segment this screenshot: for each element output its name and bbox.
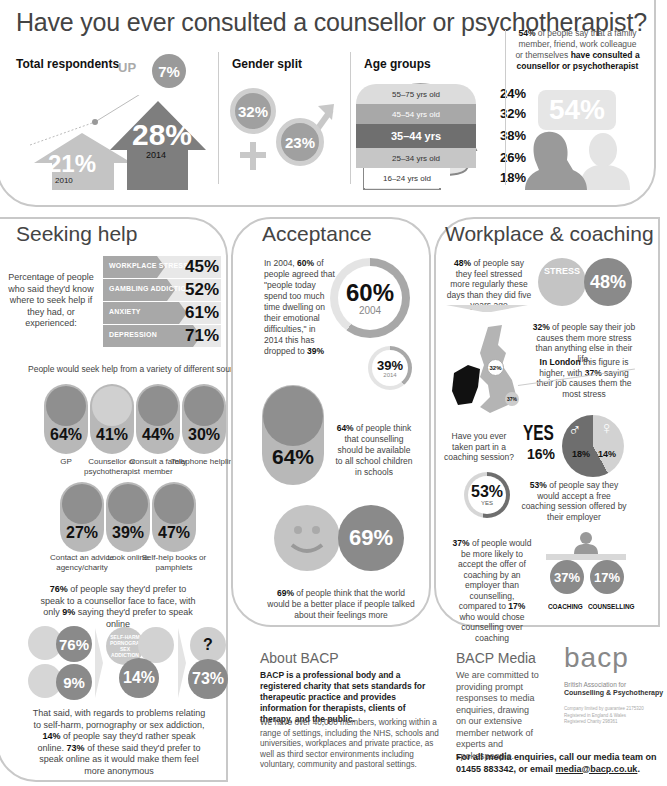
online-topics-circle: 14% [119, 658, 159, 698]
yes-value: 16% [527, 446, 555, 462]
male-circle: 23% [276, 118, 324, 166]
two-people-icon [525, 130, 635, 190]
stress-text: 48% of people say they feel stressed mor… [446, 258, 532, 311]
age-pct-55-75: 24% [500, 86, 526, 101]
age-pct-16-24: 18% [500, 170, 526, 185]
about-body-text: We have over 40,000 members, working wit… [260, 718, 440, 771]
seeking-help-title: Seeking help [16, 222, 137, 246]
up-badge: 7% [152, 54, 186, 88]
coaching-question: Have you ever taken part in a coaching s… [444, 431, 514, 463]
accept-text: 53% of people say they would accept a fr… [520, 480, 628, 522]
bar-depression: DEPRESSION 71% [103, 325, 221, 347]
source-charity: 27% [60, 482, 104, 552]
charity-hand-icon [62, 484, 102, 524]
family-icon [138, 386, 178, 426]
media-contact-text: For all media enquiries, call our media … [456, 752, 666, 775]
bar-anxiety: ANXIETY 61% [103, 302, 221, 324]
source-gp: 64% [44, 384, 88, 454]
books-icon [154, 484, 194, 524]
age-row-35-44: 35–44 yrs [356, 124, 476, 148]
school-text: 64% of people think that counselling sho… [334, 423, 414, 478]
map-uk-marker: 32% [487, 359, 504, 376]
seeking-help-intro: Percentage of people who said they'd kno… [6, 272, 96, 330]
coaching-label: COACHING [548, 602, 583, 611]
age-groups-header: Age groups [364, 57, 431, 71]
divider [505, 30, 506, 185]
ring-2014: 39% 2014 [368, 346, 412, 390]
bar-gambling-addiction: GAMBLING ADDICTION 52% [103, 279, 221, 301]
counselling-label: COUNSELLING [588, 602, 635, 611]
value-2014: 28% [132, 118, 192, 152]
bar-workplace-stress: WORKPLACE STRESS 45% [103, 256, 221, 278]
london-text: In London this figure is higher, with 37… [530, 357, 638, 399]
consulted-text: 54% of people say that a family member, … [515, 28, 640, 72]
age-row-25-34: 25–34 yrs old [356, 148, 476, 168]
female-value: 14% [598, 449, 616, 459]
source-online: 39% [106, 482, 150, 552]
source-caption: Self-help books or pamphlets [139, 553, 209, 573]
desk-icon [546, 554, 626, 560]
online-circle: 9% [56, 664, 92, 700]
face-to-face-circle: 76% [56, 626, 92, 662]
source-books: 47% [152, 482, 196, 552]
smiley-face-icon [274, 505, 340, 571]
bacp-logo: bacp [564, 642, 629, 674]
sources-intro: People would seek help from a variety of… [28, 364, 249, 374]
source-counsellor: 41% [90, 384, 134, 454]
label-2014: 2014 [146, 150, 166, 160]
laptop-icon [108, 484, 148, 524]
source-caption: Telephone helpline [169, 457, 239, 467]
divider [218, 52, 219, 184]
total-respondents-header: Total respondents [16, 57, 119, 71]
first-aid-kit-icon [46, 386, 86, 426]
two-people-icon [92, 386, 132, 426]
world-better-circle: 69% [338, 505, 404, 571]
female-circle: 32% [230, 88, 276, 134]
up-label: UP [118, 60, 136, 75]
stress-circle: 48% [584, 258, 632, 306]
age-pct-35-44: 38% [500, 128, 526, 143]
accept-ring: 53% YES [464, 472, 510, 518]
about-title: About BACP [260, 650, 339, 666]
age-row-16-24: 16–24 yrs old [364, 168, 450, 188]
logo-legal: Company limited by guarantee 2175320Regi… [564, 706, 644, 726]
anonymous-person-icon: ? [190, 627, 226, 663]
business-person-icon [574, 532, 598, 554]
closing-text: That said, with regards to problems rela… [30, 708, 208, 777]
male-value: 18% [572, 449, 590, 459]
media-email-link[interactable]: media@bacp.co.uk [556, 764, 638, 774]
stress-crack-icon: STRESS [538, 258, 586, 306]
workplace-title: Workplace & coaching [445, 222, 654, 246]
face-to-face-text: 76% of people say they'd prefer to speak… [38, 584, 198, 630]
media-body-text: We are committed to providing prompt res… [456, 670, 540, 762]
media-title: BACP Media [456, 650, 536, 666]
acceptance-intro: In 2004, 60% of people agreed that "peop… [264, 258, 336, 357]
source-helpline: 30% [182, 384, 226, 454]
age-row-45-54: 45–54 yrs old [356, 104, 476, 124]
coaching-circle: 37% [550, 560, 584, 594]
age-pct-45-54: 32% [500, 106, 526, 121]
gender-split-header: Gender split [232, 57, 302, 71]
world-text: 69% of people think that the world would… [266, 588, 416, 621]
school-report-icon [263, 386, 323, 446]
age-pct-25-34: 26% [500, 150, 526, 165]
map-london-marker: 37% [505, 392, 519, 406]
counselling-circle: 17% [590, 560, 624, 594]
school-pill: 64% [262, 385, 324, 485]
logo-line1: British Association for [564, 681, 626, 688]
about-bold-text: BACP is a professional body and a regist… [260, 670, 438, 725]
female-icon: ♀ [600, 418, 614, 439]
speech-bubble: 54% [538, 90, 616, 130]
source-family: 44% [136, 384, 180, 454]
acceptance-title: Acceptance [262, 222, 372, 246]
logo-line2: Counselling & Psychotherapy [564, 689, 663, 696]
yes-label: YES [523, 420, 554, 446]
preference-text: 37% of people would be more likely to ac… [452, 538, 532, 643]
ring-2004: 60% 2004 [330, 258, 410, 338]
age-row-55-75: 55–75 yrs old [356, 84, 476, 104]
telephone-icon [184, 386, 224, 426]
male-icon: ♂ [568, 420, 582, 441]
label-2010: 2010 [55, 176, 73, 185]
people-silhouettes [525, 130, 635, 190]
anonymous-circle: 73% [188, 659, 228, 699]
